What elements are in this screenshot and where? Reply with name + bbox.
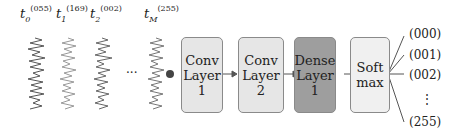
trace-M bbox=[148, 38, 164, 109]
output-000: (000) bbox=[409, 27, 441, 41]
trace-0 bbox=[28, 38, 45, 109]
ellipsis: ··· bbox=[126, 66, 137, 80]
output-vdots: ⋮ bbox=[421, 92, 433, 106]
softmax-layer: Soft max bbox=[350, 37, 390, 113]
dense-layer-1: Dense Layer 1 bbox=[294, 37, 336, 113]
output-001: (001) bbox=[409, 48, 441, 62]
output-255: (255) bbox=[409, 115, 441, 129]
conv-layer-2: Conv Layer 2 bbox=[238, 37, 284, 113]
trace-2 bbox=[94, 38, 112, 109]
trace-1 bbox=[60, 38, 76, 109]
output-002: (002) bbox=[409, 68, 441, 82]
conv-layer-1: Conv Layer 1 bbox=[181, 37, 223, 113]
